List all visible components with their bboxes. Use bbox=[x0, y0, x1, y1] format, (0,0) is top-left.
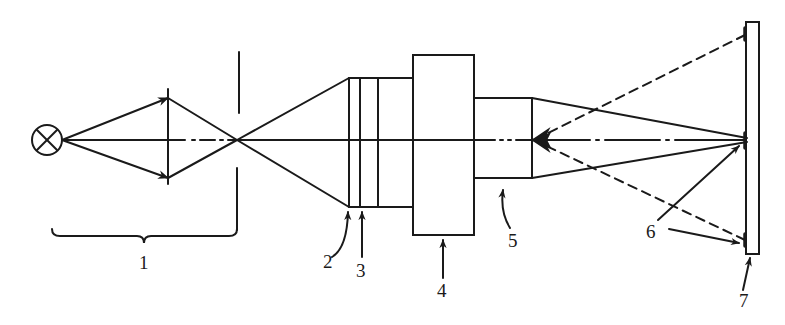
label-1: 1 bbox=[139, 253, 149, 272]
leader-2 bbox=[332, 212, 348, 257]
objective-tube-5 bbox=[474, 98, 532, 178]
label-7: 7 bbox=[739, 291, 749, 310]
diagram-canvas bbox=[0, 0, 785, 325]
source-rays bbox=[62, 98, 168, 178]
bracket-1 bbox=[52, 229, 237, 243]
label-6: 6 bbox=[646, 222, 656, 241]
light-source-icon bbox=[32, 125, 62, 155]
optical-diagram: 1 2 3 4 5 6 7 bbox=[0, 0, 785, 325]
leader-5 bbox=[502, 190, 510, 228]
label-2: 2 bbox=[323, 252, 333, 271]
dashed-return-rays bbox=[538, 35, 745, 240]
leader-7 bbox=[743, 258, 750, 290]
block-4 bbox=[413, 55, 474, 235]
plates-2-3 bbox=[349, 78, 413, 207]
return-arrowheads bbox=[533, 130, 549, 150]
label-4: 4 bbox=[437, 281, 447, 300]
label-3: 3 bbox=[356, 261, 366, 280]
leader-6a bbox=[658, 146, 739, 220]
label-5: 5 bbox=[508, 231, 518, 250]
